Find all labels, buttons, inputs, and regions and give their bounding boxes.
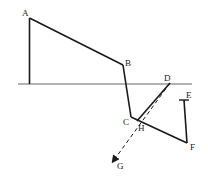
label-f: F	[190, 142, 195, 152]
label-d: D	[164, 73, 171, 83]
segment-fe	[184, 100, 187, 143]
label-h: H	[138, 123, 145, 133]
label-c: C	[123, 117, 129, 127]
force-diagram: A B C D E F G H	[0, 0, 208, 178]
segment-bc	[123, 65, 131, 117]
label-e: E	[186, 90, 192, 100]
segment-ab	[30, 18, 124, 65]
label-a: A	[22, 8, 29, 18]
label-b: B	[125, 58, 131, 68]
label-g: G	[117, 161, 124, 171]
segment-dh	[137, 83, 170, 121]
